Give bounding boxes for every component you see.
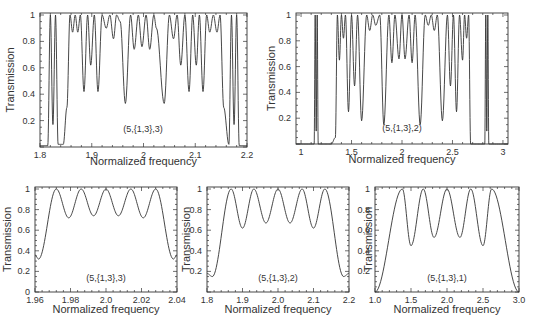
chart-svg: 1.01.52.02.53.00.20.40.60.81Normalized f… bbox=[0, 0, 548, 323]
y-tick-label: 1 bbox=[365, 184, 370, 194]
y-axis-label: Transmission bbox=[362, 207, 374, 272]
chart-bottom-right: 1.01.52.02.53.00.20.40.60.81Normalized f… bbox=[357, 184, 525, 315]
x-axis-label: Normalized frequency bbox=[394, 303, 501, 315]
x-tick-label: 3.0 bbox=[513, 295, 526, 305]
structure-annotation: (5,{1,3},1) bbox=[427, 273, 467, 283]
plot-bottom-right: 1.01.52.02.53.00.20.40.60.81Normalized f… bbox=[0, 0, 548, 323]
x-tick-label: 1.0 bbox=[369, 295, 382, 305]
